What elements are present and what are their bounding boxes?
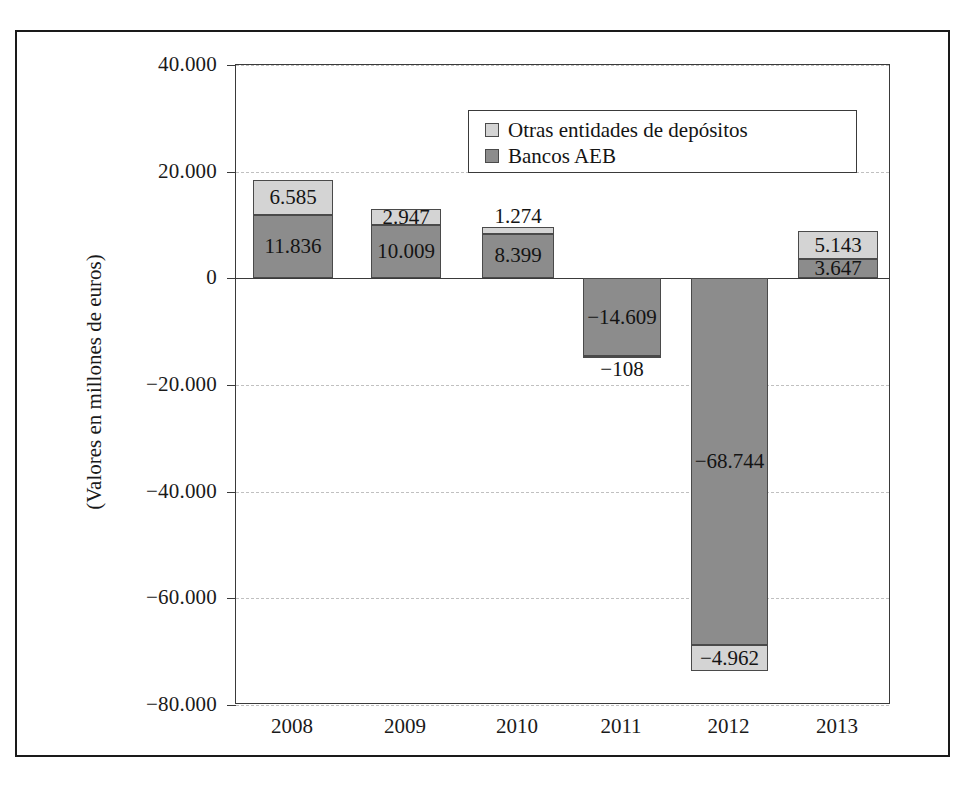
bar-segment-otras-entidades-2011[interactable]: −108: [583, 356, 661, 358]
legend-label-bancos-aeb: Bancos AEB: [508, 144, 616, 169]
gridline: [236, 598, 889, 599]
x-axis-tick-label-2013: 2013: [816, 714, 858, 739]
legend-item-bancos-aeb: Bancos AEB: [485, 143, 856, 169]
legend-swatch-icon-bancos-aeb: [485, 149, 499, 163]
y-axis-tick-label: 40.000: [158, 52, 217, 77]
bar-segment-bancos-aeb-2013[interactable]: 3.647: [798, 259, 878, 278]
legend-label-otras-entidades: Otras entidades de depósitos: [508, 118, 748, 143]
y-axis-tick-mark: [227, 172, 236, 173]
bar-segment-otras-entidades-2013[interactable]: 5.143: [798, 231, 878, 258]
y-axis-tick-mark: [227, 278, 236, 279]
gridline: [236, 65, 889, 66]
bar-value-label: 1.274: [494, 206, 541, 227]
bar-segment-otras-entidades-2012[interactable]: −4.962: [691, 645, 768, 671]
bar-segment-bancos-aeb-2008[interactable]: 11.836: [253, 215, 333, 278]
bar-value-label: 6.585: [269, 187, 316, 208]
bar-segment-bancos-aeb-2012[interactable]: −68.744: [691, 278, 768, 645]
y-axis-tick-label: 20.000: [158, 158, 217, 183]
y-axis-title: (Valores en millones de euros): [79, 62, 109, 702]
zero-axis-line: [236, 278, 889, 279]
bar-value-label: 10.009: [377, 241, 435, 262]
chart-legend: Otras entidades de depósitos Bancos AEB: [468, 110, 857, 173]
figure-frame: (Valores en millones de euros) 40.00020.…: [15, 30, 950, 757]
bar-segment-otras-entidades-2009[interactable]: 2.947: [371, 209, 441, 225]
x-axis-tick-label-2009: 2009: [384, 714, 426, 739]
y-axis-tick-mark: [227, 492, 236, 493]
y-axis-tick-mark: [227, 705, 236, 706]
gridline: [236, 385, 889, 386]
y-axis-tick-label: −20.000: [146, 372, 217, 397]
x-axis-tick-label-2010: 2010: [496, 714, 538, 739]
gridline: [236, 705, 889, 706]
bar-value-label: 5.143: [814, 235, 861, 256]
y-axis-tick-label: −60.000: [146, 585, 217, 610]
gridline: [236, 492, 889, 493]
y-axis-tick-mark: [227, 598, 236, 599]
bar-segment-otras-entidades-2010[interactable]: 1.274: [482, 227, 554, 234]
x-axis-tick-label-2011: 2011: [600, 714, 641, 739]
bar-value-label: 11.836: [265, 236, 322, 257]
legend-item-otras-entidades: Otras entidades de depósitos: [485, 117, 856, 143]
bar-segment-bancos-aeb-2009[interactable]: 10.009: [371, 225, 441, 278]
bar-value-label: −108: [600, 359, 643, 380]
bar-value-label: 3.647: [814, 258, 861, 279]
y-axis-tick-label: −80.000: [146, 692, 217, 717]
bar-segment-bancos-aeb-2011[interactable]: −14.609: [583, 278, 661, 356]
bar-segment-otras-entidades-2008[interactable]: 6.585: [253, 180, 333, 215]
bar-value-label: 8.399: [494, 245, 541, 266]
y-axis-tick-label: −40.000: [146, 478, 217, 503]
bar-value-label: 2.947: [382, 207, 429, 228]
bar-value-label: −14.609: [587, 307, 657, 328]
legend-swatch-icon-otras-entidades: [485, 123, 499, 137]
x-axis-tick-label-2012: 2012: [708, 714, 750, 739]
bar-value-label: −68.744: [695, 451, 765, 472]
y-axis-tick-mark: [227, 385, 236, 386]
y-axis-tick-label: 0: [206, 265, 217, 290]
x-axis-tick-label-2008: 2008: [271, 714, 313, 739]
bar-segment-bancos-aeb-2010[interactable]: 8.399: [482, 234, 554, 279]
y-axis-tick-mark: [227, 65, 236, 66]
bar-value-label: −4.962: [700, 648, 759, 669]
